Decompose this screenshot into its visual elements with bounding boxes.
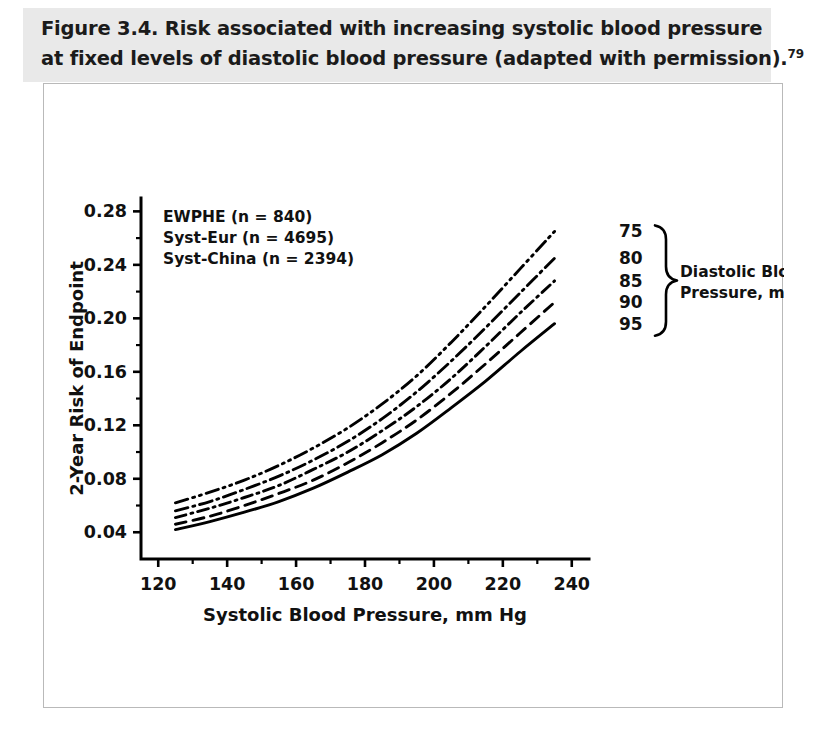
figure-panel: 0.040.080.120.160.200.240.28120140160180…: [43, 83, 783, 708]
y-axis-title: 2-Year Risk of Endpoint: [66, 261, 87, 496]
y-axis-tick-label: 0.12: [84, 415, 127, 435]
chart-canvas: 0.040.080.120.160.200.240.28120140160180…: [44, 84, 784, 709]
figure-title-band: Figure 3.4. Risk associated with increas…: [23, 8, 771, 82]
series-group-label-line-2: Pressure, mm Hg: [680, 284, 784, 302]
series-group-label-line-1: Diastolic Blood: [680, 263, 784, 281]
x-axis-tick-label: 160: [278, 574, 315, 594]
figure-title: Figure 3.4. Risk associated with increas…: [41, 14, 757, 74]
x-axis-tick-label: 220: [485, 574, 522, 594]
figure-title-line-2: at fixed levels of diastolic blood press…: [41, 47, 788, 70]
x-axis-tick-label: 180: [347, 574, 384, 594]
figure-title-line-1: Figure 3.4. Risk associated with increas…: [41, 14, 757, 44]
series-line-80: [175, 258, 554, 511]
figure-page: Figure 3.4. Risk associated with increas…: [0, 0, 823, 742]
figure-title-line-2-wrap: at fixed levels of diastolic blood press…: [41, 44, 757, 74]
y-axis-tick-label: 0.16: [84, 362, 127, 382]
legend-entry: EWPHE (n = 840): [163, 208, 312, 226]
x-axis-tick-label: 200: [416, 574, 453, 594]
series-label-75: 75: [619, 221, 643, 241]
legend-entry: Syst-Eur (n = 4695): [163, 229, 334, 247]
y-axis-tick-label: 0.28: [84, 201, 127, 221]
x-axis-tick-label: 140: [209, 574, 246, 594]
series-label-85: 85: [619, 271, 643, 291]
figure-title-reference: 79: [788, 47, 804, 61]
y-axis-tick-label: 0.08: [84, 469, 127, 489]
series-label-80: 80: [619, 248, 643, 268]
line-chart: 0.040.080.120.160.200.240.28120140160180…: [44, 84, 784, 709]
legend-entry: Syst-China (n = 2394): [163, 250, 354, 268]
y-axis-tick-label: 0.24: [84, 255, 127, 275]
x-axis-tick-label: 120: [140, 574, 177, 594]
y-axis-tick-label: 0.20: [84, 308, 127, 328]
series-label-90: 90: [619, 292, 643, 312]
x-axis-title: Systolic Blood Pressure, mm Hg: [203, 604, 527, 625]
y-axis-tick-label: 0.04: [84, 522, 127, 542]
series-group-brace: [655, 225, 677, 335]
x-axis-tick-label: 240: [554, 574, 591, 594]
series-label-95: 95: [619, 314, 643, 334]
